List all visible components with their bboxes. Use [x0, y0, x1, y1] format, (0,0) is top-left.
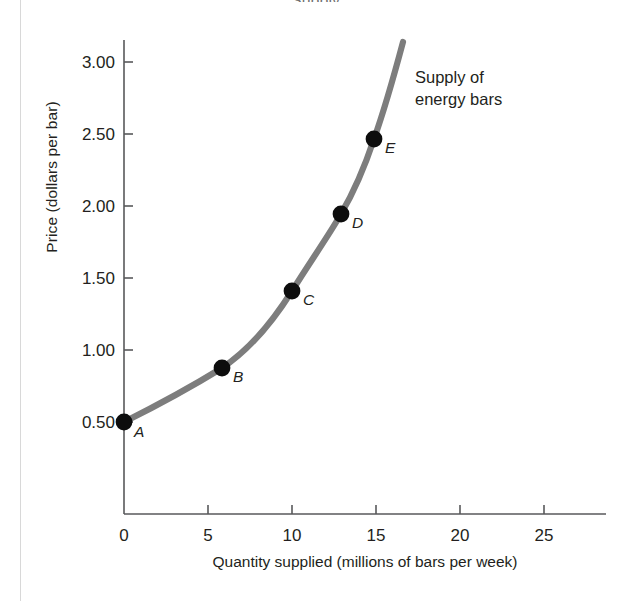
y-tick-label-1: 1.00 [55, 342, 115, 359]
y-tick-label-2-5: 2.50 [55, 126, 115, 143]
x-tick-label-0: 0 [104, 527, 144, 544]
y-axis-title: Price (dollars per bar) [43, 47, 61, 307]
data-point-d [333, 206, 350, 223]
chart-canvas [0, 0, 631, 601]
point-label-b: B [233, 369, 243, 385]
supply-curve-annotation: Supply of energy bars [415, 66, 502, 111]
supply-curve [124, 42, 403, 422]
data-point-e [366, 131, 383, 148]
data-point-a [116, 414, 133, 431]
data-point-b [214, 360, 231, 377]
x-tick-label-10: 10 [272, 527, 312, 544]
x-axis-title: Quantity supplied (millions of bars per … [124, 553, 606, 571]
annotation-line-1: Supply of [415, 66, 502, 88]
supply-curve-figure: Supply [0, 0, 631, 601]
x-tick-label-5: 5 [188, 527, 228, 544]
x-tick-label-20: 20 [440, 527, 480, 544]
x-tick-label-25: 25 [524, 527, 564, 544]
y-axis-ticks [124, 62, 133, 422]
y-tick-label-1-5: 1.50 [55, 270, 115, 287]
point-label-a: A [134, 424, 144, 440]
x-tick-label-15: 15 [356, 527, 396, 544]
y-tick-label-2: 2.00 [55, 198, 115, 215]
data-point-markers [116, 131, 383, 431]
y-tick-label-3: 3.00 [55, 54, 115, 71]
x-axis-ticks [208, 505, 544, 514]
y-tick-label-0-5: 0.50 [55, 414, 115, 431]
point-label-e: E [385, 140, 395, 156]
annotation-line-2: energy bars [415, 88, 502, 110]
point-label-c: C [303, 292, 314, 308]
point-label-d: D [352, 215, 363, 231]
data-point-c [284, 283, 301, 300]
